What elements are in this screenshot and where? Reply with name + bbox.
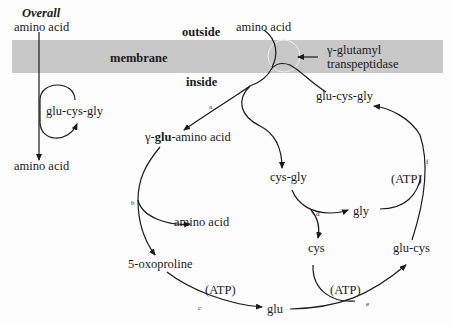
node-gly: gly	[353, 204, 369, 218]
node-glu-cys-gly: glu-cys-gly	[316, 89, 373, 103]
to-cys-gly-arrow	[242, 86, 282, 168]
node-glu: glu	[267, 302, 283, 316]
step-f-label: f	[426, 155, 428, 169]
node-gamma-glu-amino-acid: γ-glu-amino acid	[145, 130, 231, 144]
node-cys-gly: cys-gly	[270, 170, 307, 184]
overall-glu-cys-gly: glu-cys-gly	[46, 104, 103, 118]
step-d-label: d	[316, 207, 320, 221]
overall-title: Overall	[22, 6, 60, 20]
inside-label: inside	[186, 75, 217, 89]
atp-step-c: (ATP)	[205, 283, 236, 297]
overall-amino-acid-top: amino acid	[14, 20, 69, 34]
step-b-label: b	[131, 196, 135, 210]
step-a-label: a	[209, 100, 212, 114]
step-a-arrow	[184, 86, 250, 130]
node-cys: cys	[308, 241, 325, 255]
enzyme-label-line2: transpeptidase	[327, 57, 399, 71]
membrane-label: membrane	[110, 51, 168, 65]
node-amino-acid-released: amino acid	[174, 215, 229, 229]
gsh-in	[272, 64, 326, 92]
gamma-glutamyl-cycle-diagram: Overall amino acid glu-cys-gly amino aci…	[0, 0, 451, 325]
atp-step-e: (ATP)	[330, 283, 361, 297]
outside-label: outside	[182, 25, 220, 39]
overall-amino-acid-bottom: amino acid	[14, 159, 69, 173]
node-glu-cys: glu-cys	[393, 241, 430, 255]
atp-step-f: (ATP)	[391, 172, 422, 186]
step-d-gly-arrow	[292, 190, 348, 213]
step-e-label: e	[366, 297, 369, 311]
enzyme-label-line1: γ-glutamyl	[327, 43, 381, 57]
step-b-arrow	[138, 200, 155, 255]
step-c-label: c	[198, 301, 201, 315]
node-amino-acid-outside: amino acid	[236, 20, 291, 34]
node-5-oxoproline: 5-oxoproline	[128, 257, 193, 271]
